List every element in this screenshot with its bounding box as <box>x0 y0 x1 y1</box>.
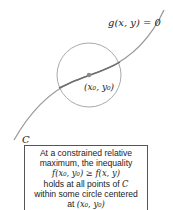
caption-line: At a constrained relative <box>25 148 147 158</box>
caption-line: within some circle centered <box>25 189 147 199</box>
curve-name-label: C <box>22 134 30 145</box>
caption-text: holds at all points of <box>44 179 122 189</box>
caption-line: maximum, the inequality <box>25 158 147 168</box>
point-label: (x₀, y₀) <box>84 82 115 92</box>
caption-line: holds at all points of C <box>25 179 147 189</box>
caption-text: at <box>67 199 77 209</box>
curve-symbol: C <box>122 179 128 189</box>
point-symbol: (x₀, y₀) <box>77 199 105 209</box>
point-x0-y0 <box>87 73 91 77</box>
curve-equation-label: g(x, y) = 0 <box>108 17 162 28</box>
caption-box: At a constrained relative maximum, the i… <box>24 145 148 210</box>
inequality: f(x₀, y₀) ≥ f(x, y) <box>25 168 147 178</box>
caption-line: at (x₀, y₀) <box>25 199 147 209</box>
